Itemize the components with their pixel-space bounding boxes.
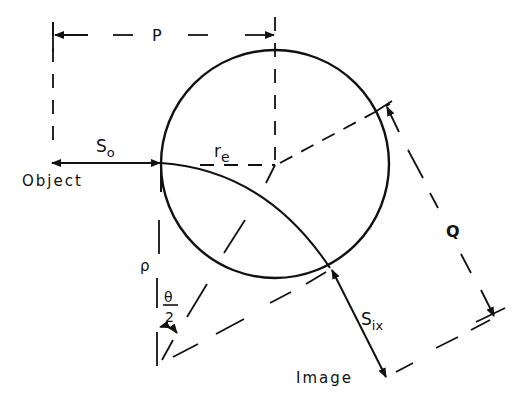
center-tick (266, 165, 275, 183)
label-rho: ρ (140, 257, 150, 275)
label-two: 2 (165, 309, 174, 325)
theta-angle-arrow (160, 326, 177, 333)
q-dimension (387, 107, 494, 316)
label-object: Object (22, 172, 83, 190)
bottom-dashed (396, 320, 490, 372)
sphere-circle (161, 50, 389, 278)
refracted-ray (161, 163, 330, 268)
label-re: re (214, 141, 230, 165)
label-six: Six (361, 309, 383, 333)
label-q: Q (446, 222, 460, 241)
optics-diagram: P So Object re ρ θ 2 Q Six Image (0, 0, 522, 404)
label-image: Image (296, 369, 353, 387)
label-p: P (152, 26, 162, 45)
rho-dashed (157, 220, 159, 366)
label-theta: θ (164, 289, 173, 305)
q-radius-dashed (280, 104, 390, 163)
theta-rays (162, 220, 326, 360)
label-so: So (96, 136, 115, 160)
